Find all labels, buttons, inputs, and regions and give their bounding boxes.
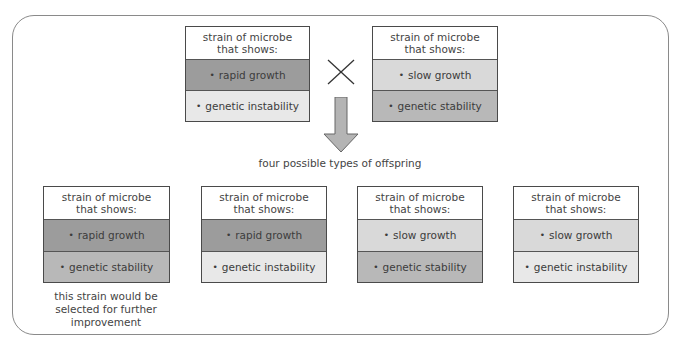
trait-rapid-growth: •rapid growth — [186, 60, 309, 90]
selection-note: this strain would be selected for furthe… — [43, 290, 169, 329]
bullet-icon: • — [524, 262, 529, 272]
bullet-icon: • — [226, 230, 231, 240]
offspring-strain-1: strain of microbe that shows: •rapid gro… — [43, 186, 170, 283]
bullet-icon: • — [212, 262, 217, 272]
trait-slow-growth: •slow growth — [373, 60, 497, 90]
trait-genetic-stability: •genetic stability — [373, 90, 497, 121]
bullet-icon: • — [68, 230, 73, 240]
bullet-icon: • — [388, 101, 393, 111]
offspring-strain-4: strain of microbe that shows: •slow grow… — [513, 186, 639, 283]
trait-slow-growth: •slow growth — [358, 220, 482, 251]
bullet-icon: • — [209, 70, 214, 80]
bullet-icon: • — [540, 230, 545, 240]
strain-header: strain of microbe that shows: — [44, 187, 169, 220]
parent-strain-1: strain of microbe that shows: •rapid gro… — [185, 26, 310, 122]
offspring-strain-2: strain of microbe that shows: •rapid gro… — [201, 186, 327, 283]
strain-header: strain of microbe that shows: — [202, 187, 326, 220]
trait-genetic-stability: •genetic stability — [44, 251, 169, 283]
offspring-label: four possible types of offspring — [0, 157, 680, 169]
strain-header: strain of microbe that shows: — [186, 27, 309, 60]
offspring-strain-3: strain of microbe that shows: •slow grow… — [357, 186, 483, 283]
bullet-icon: • — [399, 70, 404, 80]
strain-header: strain of microbe that shows: — [358, 187, 482, 220]
bullet-icon: • — [373, 262, 378, 272]
trait-genetic-instability: •genetic instability — [186, 90, 309, 121]
strain-header: strain of microbe that shows: — [373, 27, 497, 60]
trait-rapid-growth: •rapid growth — [202, 220, 326, 251]
trait-genetic-instability: •genetic instability — [202, 251, 326, 283]
cross-icon — [326, 58, 356, 86]
bullet-icon: • — [384, 230, 389, 240]
strain-header: strain of microbe that shows: — [514, 187, 638, 220]
trait-genetic-instability: •genetic instability — [514, 251, 638, 283]
bullet-icon: • — [60, 262, 65, 272]
trait-rapid-growth: •rapid growth — [44, 220, 169, 251]
parent-strain-2: strain of microbe that shows: •slow grow… — [372, 26, 498, 122]
trait-slow-growth: •slow growth — [514, 220, 638, 251]
down-arrow-icon — [323, 97, 359, 153]
trait-genetic-stability: •genetic stability — [358, 251, 482, 283]
bullet-icon: • — [196, 101, 201, 111]
